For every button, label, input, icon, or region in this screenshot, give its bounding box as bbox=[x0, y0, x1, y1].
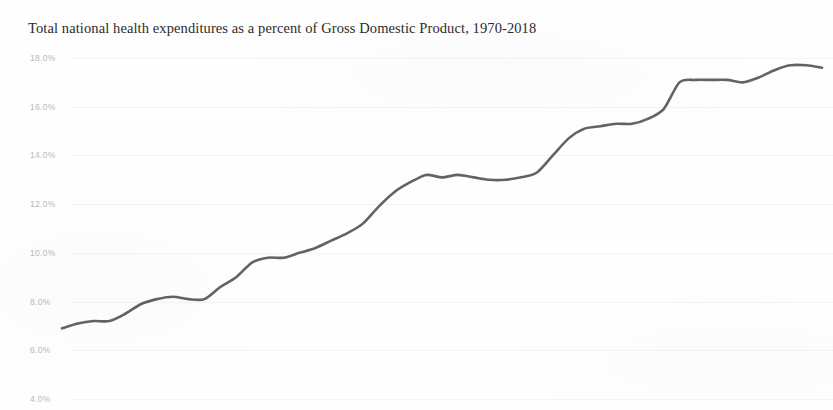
plot-area: 18.0%16.0%14.0%12.0%10.0%8.0%6.0%4.0% bbox=[0, 0, 833, 410]
series-line-total-health-expenditures bbox=[62, 65, 822, 328]
series-line-chart bbox=[0, 0, 833, 410]
chart-figure: Total national health expenditures as a … bbox=[0, 0, 833, 410]
